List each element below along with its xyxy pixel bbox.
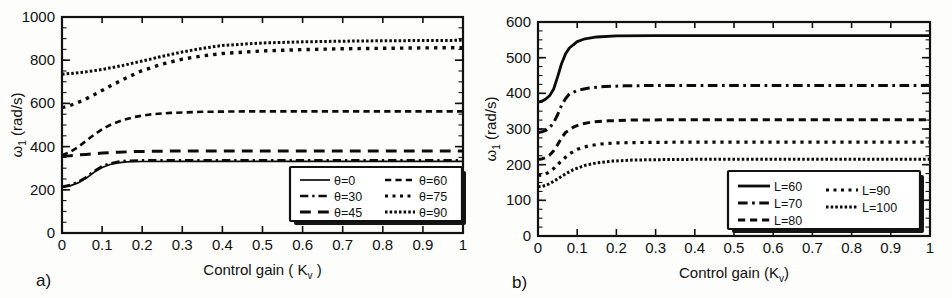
series-line-l-70	[538, 85, 930, 132]
y-tick-label: 600	[506, 13, 531, 30]
legend-label: L=80	[774, 214, 802, 228]
y-tick-label: 1000	[22, 8, 55, 25]
chart-panel-a: 00.10.20.30.40.50.60.70.80.9102004006008…	[0, 0, 476, 298]
x-tick-label: 0.4	[212, 236, 233, 253]
x-tick-label: 0.9	[412, 236, 433, 253]
panel-label: a)	[36, 271, 51, 290]
legend-label: θ=0	[334, 174, 355, 188]
legend-label: θ=75	[419, 190, 447, 204]
y-tick-label: 200	[506, 156, 531, 173]
y-axis-title: ω1 (rad/s)	[482, 97, 502, 162]
x-tick-label: 0.9	[880, 239, 901, 256]
x-tick-label: 0.1	[567, 239, 588, 256]
legend-label: θ=60	[419, 174, 447, 188]
series-line---75	[62, 48, 463, 108]
x-axis-title: Control gain (Kv)	[679, 264, 789, 284]
y-tick-label: 400	[30, 138, 55, 155]
x-tick-label: 0.6	[292, 236, 313, 253]
x-tick-label: 0.8	[372, 236, 393, 253]
series-line-l-80	[538, 120, 930, 160]
y-tick-label: 400	[506, 84, 531, 101]
y-tick-label: 300	[506, 120, 531, 137]
x-tick-label: 0.3	[645, 239, 666, 256]
x-tick-label: 0.1	[92, 236, 113, 253]
series-line---90	[62, 40, 463, 74]
x-tick-label: 1	[459, 236, 467, 253]
y-tick-label: 100	[506, 191, 531, 208]
legend-label: L=70	[774, 197, 802, 211]
legend-label: L=90	[862, 184, 890, 198]
series-line-l-60	[538, 36, 930, 103]
y-tick-label: 500	[506, 49, 531, 66]
x-tick-label: 0.2	[132, 236, 153, 253]
legend-label: θ=30	[334, 190, 362, 204]
y-tick-label: 600	[30, 94, 55, 111]
chart-a-svg: 00.10.20.30.40.50.60.70.80.9102004006008…	[0, 0, 476, 298]
x-tick-label: 0.4	[684, 239, 705, 256]
x-tick-label: 0.3	[172, 236, 193, 253]
y-tick-label: 800	[30, 51, 55, 68]
figure-container: 00.10.20.30.40.50.60.70.80.9102004006008…	[0, 0, 952, 298]
series-line---60	[62, 111, 463, 155]
chart-panel-b: 00.10.20.30.40.50.60.70.80.9101002003004…	[476, 0, 952, 298]
x-axis-title: Control gain ( Kv )	[203, 261, 321, 281]
y-tick-label: 0	[47, 224, 55, 241]
x-tick-label: 0	[58, 236, 66, 253]
x-tick-label: 0.6	[763, 239, 784, 256]
legend-label: θ=45	[334, 206, 362, 220]
series-line---45	[62, 151, 463, 156]
y-tick-label: 0	[523, 227, 531, 244]
x-tick-label: 0.7	[332, 236, 353, 253]
x-tick-label: 0.2	[606, 239, 627, 256]
legend-label: θ=90	[419, 206, 447, 220]
panel-label: b)	[512, 273, 527, 292]
chart-b-svg: 00.10.20.30.40.50.60.70.80.9101002003004…	[476, 0, 952, 298]
x-tick-label: 0.5	[724, 239, 745, 256]
y-axis-title: ω1 (rad/s)	[8, 93, 28, 158]
x-tick-label: 0.8	[841, 239, 862, 256]
legend-label: L=60	[774, 180, 802, 194]
x-tick-label: 1	[926, 239, 934, 256]
legend-label: L=100	[862, 201, 897, 215]
x-tick-label: 0.7	[802, 239, 823, 256]
x-tick-label: 0	[534, 239, 542, 256]
y-tick-label: 200	[30, 181, 55, 198]
x-tick-label: 0.5	[252, 236, 273, 253]
